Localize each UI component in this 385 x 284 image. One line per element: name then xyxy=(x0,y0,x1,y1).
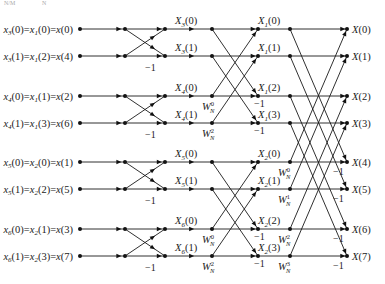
arrowhead-icon xyxy=(340,227,345,231)
twiddle-stage3-1: W1N xyxy=(278,193,291,207)
input-label-1: x3(1)=x1(2)=x(4) xyxy=(2,51,73,65)
arrowhead-icon xyxy=(189,27,194,31)
stage1-output-label-3: X4(1) xyxy=(174,109,198,123)
stage1-output-label-0: X3(0) xyxy=(174,15,198,29)
minus-one-label: −1 xyxy=(254,231,265,242)
output-node xyxy=(345,27,349,31)
output-node xyxy=(345,94,349,98)
output-node xyxy=(345,227,349,231)
arrowhead-icon xyxy=(251,27,256,31)
arrowhead-icon xyxy=(340,254,345,258)
arrowhead-icon xyxy=(340,54,345,58)
arrowhead-icon xyxy=(150,45,155,50)
stage2-output-label-3: X1(3) xyxy=(257,109,281,123)
arrowhead-icon xyxy=(252,165,257,170)
arrowhead-icon xyxy=(340,187,345,191)
minus-one-label: −1 xyxy=(254,258,265,269)
input-label-3: x4(1)=x1(3)=x(6) xyxy=(2,118,73,132)
stage1-output-label-7: X6(1) xyxy=(174,242,198,256)
arrowhead-icon xyxy=(150,245,155,250)
output-label-7: X(7) xyxy=(351,251,371,263)
arrowhead-icon xyxy=(116,121,121,125)
twiddle-stage2-3: W2N xyxy=(202,260,215,274)
arrowhead-icon xyxy=(157,54,162,58)
arrowhead-icon xyxy=(252,88,257,93)
input-label-6: x6(0)=x2(1)=x(3) xyxy=(2,224,73,238)
arrowhead-icon xyxy=(157,94,162,98)
twiddle-stage3-2: W2N xyxy=(278,233,291,247)
minus-one-label: −1 xyxy=(145,129,156,140)
stage1-output-label-5: X5(1) xyxy=(174,175,198,189)
arrowhead-icon xyxy=(189,187,194,191)
arrowhead-icon xyxy=(189,254,194,258)
arrowhead-icon xyxy=(251,54,256,58)
arrowhead-icon xyxy=(116,27,121,31)
stage2-output-label-1: X1(1) xyxy=(257,42,281,56)
twiddle-stage3-3: W3N xyxy=(278,260,291,274)
output-label-3: X(3) xyxy=(351,118,371,130)
stage1-output-label-2: X4(0) xyxy=(174,82,198,96)
arrowhead-icon xyxy=(157,160,162,164)
arrowhead-icon xyxy=(340,27,345,31)
arrowhead-icon xyxy=(150,169,155,174)
output-label-1: X(1) xyxy=(351,51,371,63)
output-node xyxy=(345,254,349,258)
arrowhead-icon xyxy=(189,227,194,231)
output-label-5: X(5) xyxy=(351,184,371,196)
arrowhead-icon xyxy=(189,160,194,164)
minus-one-label: −1 xyxy=(145,262,156,273)
arrowhead-icon xyxy=(340,121,345,125)
arrowhead-icon xyxy=(150,103,155,108)
arrowhead-icon xyxy=(116,94,121,98)
output-label-2: X(2) xyxy=(351,91,371,103)
minus-one-label: −1 xyxy=(333,193,344,204)
title-fragment: N xyxy=(42,0,47,6)
arrowhead-icon xyxy=(150,36,155,41)
arrowhead-icon xyxy=(252,115,257,120)
arrowhead-icon xyxy=(189,54,194,58)
stage2-output-label-0: X1(0) xyxy=(257,15,281,29)
arrowhead-icon xyxy=(252,221,257,226)
stage1-output-label-1: X3(1) xyxy=(174,42,198,56)
twiddle-stage2-0: W0N xyxy=(202,100,215,114)
arrowhead-icon xyxy=(251,187,256,191)
arrowhead-icon xyxy=(150,112,155,117)
input-label-0: x3(0)=x1(0)=x(0) xyxy=(2,24,73,38)
fft-butterfly-diagram: N/MNx3(0)=x1(0)=x(0)x3(1)=x1(2)=x(4)x4(0… xyxy=(0,0,385,284)
input-label-5: x5(1)=x2(2)=x(5) xyxy=(2,184,73,198)
stage1-output-label-6: X6(0) xyxy=(174,215,198,229)
arrowhead-icon xyxy=(251,160,256,164)
arrowhead-icon xyxy=(252,32,257,37)
minus-one-label: −1 xyxy=(145,195,156,206)
arrowhead-icon xyxy=(116,187,121,191)
arrowhead-icon xyxy=(150,178,155,183)
stage2-output-label-2: X1(2) xyxy=(257,82,281,96)
output-label-4: X(4) xyxy=(351,157,371,169)
output-label-6: X(6) xyxy=(351,224,371,236)
arrowhead-icon xyxy=(116,254,121,258)
stage1-output-label-4: X5(0) xyxy=(174,148,198,162)
output-node xyxy=(345,54,349,58)
arrowhead-icon xyxy=(157,187,162,191)
arrowhead-icon xyxy=(340,94,345,98)
title-fragment: N/M xyxy=(4,0,16,6)
arrowhead-icon xyxy=(252,192,257,197)
minus-one-label: −1 xyxy=(254,98,265,109)
arrowhead-icon xyxy=(157,121,162,125)
stage2-output-label-6: X2(2) xyxy=(257,215,281,229)
arrowhead-icon xyxy=(252,248,257,253)
twiddle-stage2-1: W2N xyxy=(202,127,215,141)
minus-one-label: −1 xyxy=(333,260,344,271)
twiddle-stage3-0: W0N xyxy=(278,166,291,180)
minus-one-label: −1 xyxy=(254,125,265,136)
arrowhead-icon xyxy=(189,121,194,125)
output-node xyxy=(345,160,349,164)
input-label-2: x4(0)=x1(1)=x(2) xyxy=(2,91,73,105)
output-node xyxy=(345,121,349,125)
arrowhead-icon xyxy=(150,236,155,241)
stage2-output-label-4: X2(0) xyxy=(257,148,281,162)
arrowhead-icon xyxy=(189,94,194,98)
input-label-7: x6(1)=x2(3)=x(7) xyxy=(2,251,73,265)
twiddle-stage2-2: W0N xyxy=(202,233,215,247)
arrowhead-icon xyxy=(116,160,121,164)
